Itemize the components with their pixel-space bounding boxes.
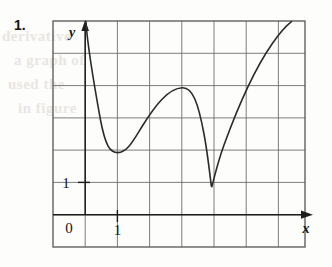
origin-label-0: 0 — [65, 220, 73, 236]
figure-page: derivative a graph of used the in figure… — [0, 0, 332, 267]
grid-vertical-lines — [85, 21, 278, 247]
x-axis-label-1: 1 — [114, 222, 122, 238]
y-axis — [81, 20, 89, 215]
plot-frame — [53, 21, 305, 247]
x-axis-name: x — [302, 221, 310, 236]
graph-figure: 1 0 1 y x — [0, 0, 332, 267]
y-axis-label-1: 1 — [62, 175, 70, 191]
function-curve — [86, 22, 292, 187]
y-axis-name: y — [67, 25, 76, 40]
x-axis — [53, 211, 313, 219]
grid-horizontal-lines — [53, 53, 305, 214]
